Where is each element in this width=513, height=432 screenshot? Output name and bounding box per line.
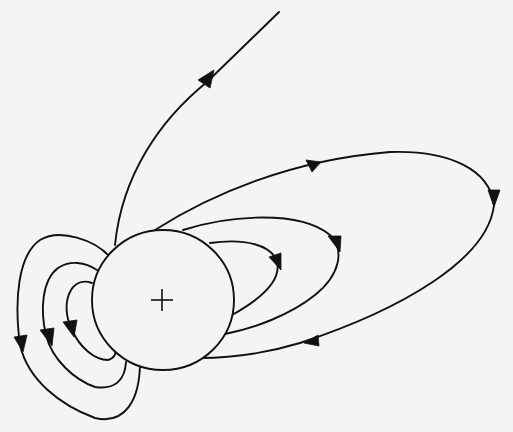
arrow-icon <box>488 190 500 207</box>
arrow-icon <box>328 236 341 252</box>
arrow-icon <box>269 253 281 270</box>
charged-sphere <box>92 230 234 370</box>
arrow-icon <box>40 328 54 346</box>
escaping-field-line <box>115 12 279 245</box>
diagram-canvas <box>0 0 513 432</box>
arrow-icon <box>198 70 214 88</box>
